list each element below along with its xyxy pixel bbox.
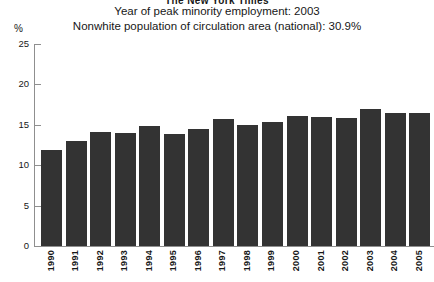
bar [409,113,430,246]
x-axis-tick-label: 2003 [366,250,375,271]
y-axis-tick-label: 0 [0,241,29,250]
bar [385,113,406,246]
x-axis-tick-label: 1998 [243,250,252,271]
y-axis-tick [35,125,41,126]
y-axis-tick [35,44,41,45]
x-axis-tick-label: 2005 [415,250,424,271]
bar [360,109,381,246]
y-axis-tick-label: 5 [0,201,29,210]
x-axis-tick-label: 1995 [169,250,178,271]
bar [213,119,234,246]
bar [262,122,283,246]
bar [66,141,87,246]
x-axis-tick-label: 1999 [267,250,276,271]
x-axis-tick-label: 2002 [341,250,350,271]
bar [139,126,160,246]
bar [90,132,111,246]
bar [237,125,258,246]
x-axis-tick-label: 2000 [292,250,301,271]
x-axis-tick-label: 1991 [71,250,80,271]
x-axis-tick-label: 1992 [96,250,105,271]
y-axis-tick-label: 10 [0,160,29,169]
y-axis-tick-label: 15 [0,120,29,129]
bar [311,117,332,246]
x-axis-tick-label: 1997 [218,250,227,271]
plot-area: 0510152025 19901991199219931994199519961… [0,0,434,282]
x-axis-line [34,246,434,247]
x-axis-tick-label: 2001 [317,250,326,271]
bar [336,118,357,246]
bar [41,150,62,246]
y-axis-tick-label: 25 [0,39,29,48]
x-axis-tick-label: 1990 [47,250,56,271]
x-axis-tick-label: 2004 [390,250,399,271]
x-axis-tick-label: 1996 [194,250,203,271]
bar [164,134,185,246]
bar [188,129,209,246]
y-axis-tick [35,84,41,85]
x-axis-tick-label: 1993 [120,250,129,271]
x-axis-tick-label: 1994 [145,250,154,271]
y-axis-tick [35,246,41,247]
y-axis-line [34,44,35,247]
bar [115,133,136,246]
bar [287,116,308,246]
chart-figure: The New York Times Year of peak minority… [0,0,434,282]
y-axis-tick-label: 20 [0,79,29,88]
